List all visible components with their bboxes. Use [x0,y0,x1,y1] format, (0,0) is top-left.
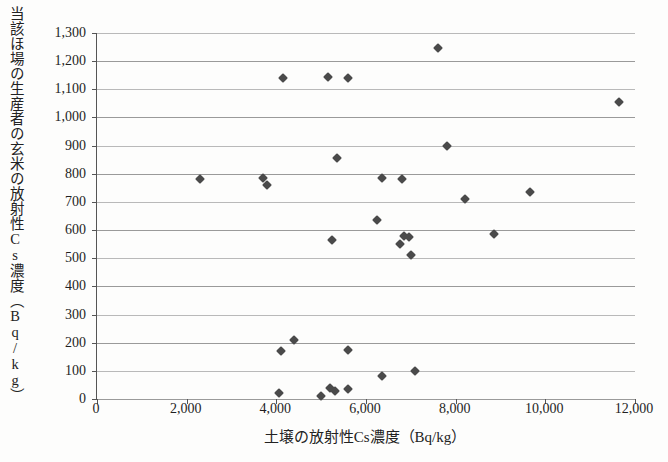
x-tick-label: 0 [93,401,100,417]
y-axis-title: 当該ほ場の生産者の玄米の放射性Cs濃度（Bq/kg） [2,0,28,408]
data-point [372,215,382,225]
y-tick-label: 700 [65,194,86,210]
y-tick-mark [92,174,97,175]
gridline-y-500 [97,258,635,259]
y-tick-label: 300 [65,307,86,323]
gridline-y-1000 [97,117,635,118]
data-point [397,174,407,184]
y-tick-mark [92,230,97,231]
y-tick-label: 1,300 [55,25,87,41]
y-tick-mark [92,202,97,203]
y-tick-label: 800 [65,166,86,182]
scatter-chart-figure: 当該ほ場の生産者の玄米の放射性Cs濃度（Bq/kg） 0100200300400… [0,0,668,462]
data-point [343,384,353,394]
y-tick-mark [92,286,97,287]
y-tick-mark [92,258,97,259]
data-point [327,235,337,245]
y-tick-label: 400 [65,278,86,294]
gridline-y-900 [97,146,635,147]
y-tick-label: 900 [65,138,86,154]
y-tick-mark [92,315,97,316]
y-tick-label: 1,000 [55,109,87,125]
y-tick-mark [92,343,97,344]
data-point [343,345,353,355]
data-point [274,388,284,398]
y-tick-mark [92,371,97,372]
x-tick-label: 12,000 [615,401,654,417]
data-point [278,73,288,83]
x-axis-title: 土壌の放射性Cs濃度（Bq/kg） [96,425,634,446]
y-tick-label: 200 [65,335,86,351]
gridline-y-300 [97,315,635,316]
y-tick-label: 500 [65,250,86,266]
data-point [525,187,535,197]
data-point [332,153,342,163]
data-point [410,366,420,376]
x-tick-label: 2,000 [170,401,202,417]
data-point [262,180,272,190]
data-point [323,72,333,82]
gridline-y-1300 [97,33,635,34]
plot-area [96,33,635,400]
data-point [442,141,452,151]
gridline-y-700 [97,202,635,203]
gridline-y-1200 [97,61,635,62]
y-tick-mark [92,61,97,62]
x-tick-label: 10,000 [525,401,564,417]
x-tick-label: 6,000 [349,401,381,417]
y-tick-label: 600 [65,222,86,238]
data-point [377,372,387,382]
y-tick-label: 1,200 [55,53,87,69]
gridline-y-100 [97,371,635,372]
x-tick-label: 8,000 [439,401,471,417]
y-tick-label: 0 [79,391,86,407]
data-point [433,44,443,54]
gridline-y-400 [97,286,635,287]
y-tick-mark [92,89,97,90]
data-point [276,346,286,356]
data-point [343,73,353,83]
y-tick-label: 100 [65,363,86,379]
y-tick-mark [92,146,97,147]
x-tick-label: 4,000 [260,401,292,417]
y-tick-mark [92,33,97,34]
x-axis-tick-labels: 02,0004,0006,0008,00010,00012,000 [96,401,634,425]
y-tick-label: 1,100 [55,81,87,97]
data-point [614,97,624,107]
y-axis-tick-labels: 01002003004005006007008009001,0001,1001,… [26,26,90,404]
y-tick-mark [92,117,97,118]
data-point [195,174,205,184]
gridline-y-1100 [97,89,635,90]
gridline-y-200 [97,343,635,344]
gridline-y-600 [97,230,635,231]
gridline-y-800 [97,174,635,175]
